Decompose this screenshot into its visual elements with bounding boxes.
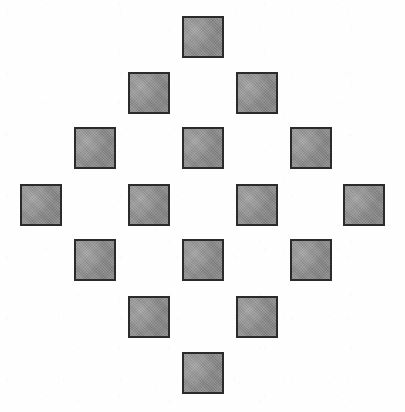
shaded-square — [20, 184, 62, 226]
shaded-square — [182, 352, 224, 394]
shaded-square — [128, 72, 170, 114]
shaded-square — [236, 296, 278, 338]
shaded-square — [182, 127, 224, 169]
shaded-square — [343, 184, 385, 226]
shaded-square — [128, 184, 170, 226]
shaded-square — [128, 296, 170, 338]
shaded-square — [236, 184, 278, 226]
shaded-square — [182, 16, 224, 58]
shaded-square — [74, 127, 116, 169]
shaded-square — [290, 239, 332, 281]
shaded-square — [74, 239, 116, 281]
shaded-square — [290, 127, 332, 169]
shaded-square — [182, 239, 224, 281]
shaded-square — [236, 72, 278, 114]
figure-canvas — [0, 0, 405, 412]
